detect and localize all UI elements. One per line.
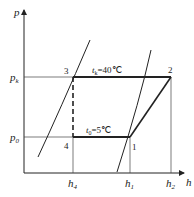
h1-label: h1 (125, 177, 134, 191)
condensing-temp-label: tk=40℃ (92, 65, 122, 76)
evaporating-temp-label: t0=5℃ (86, 125, 111, 136)
h4-label: h4 (68, 177, 78, 191)
pk-label: pk (9, 71, 20, 85)
point-4-label: 4 (64, 141, 69, 151)
point-3-label: 3 (64, 66, 69, 76)
p0-label: p0 (9, 131, 20, 145)
point-1-label: 1 (132, 142, 137, 152)
saturated-vapor-curve (117, 50, 151, 172)
h2-label: h2 (166, 177, 176, 191)
ph-diagram: p h pk p0 h4 h1 h2 1 2 3 4 tk=40℃ t0=5℃ (0, 0, 194, 197)
x-axis-label: h (186, 176, 192, 188)
y-axis-label: p (13, 6, 20, 18)
saturated-liquid-curve (38, 40, 90, 157)
point-2-label: 2 (168, 65, 173, 75)
